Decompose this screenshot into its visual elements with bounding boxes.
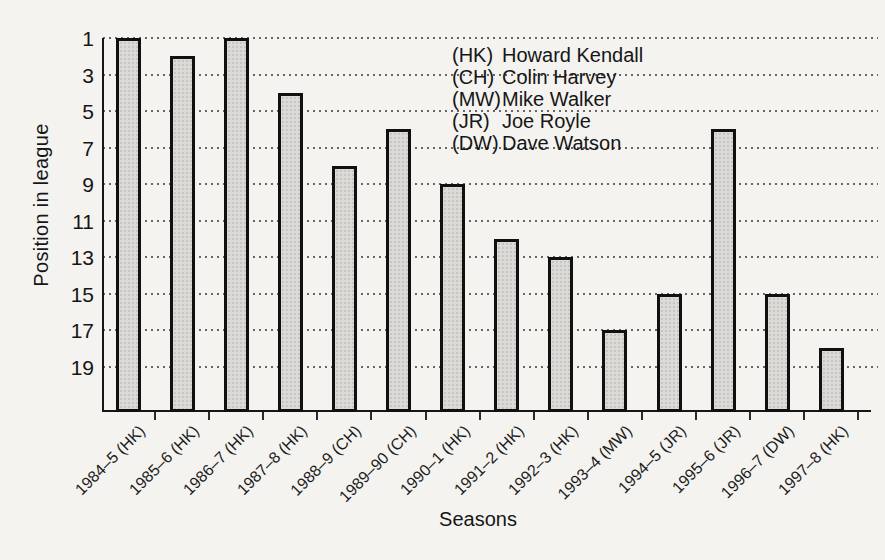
x-axis-line [103, 410, 871, 412]
x-tick-label: 1985–6 (HK) [91, 422, 203, 534]
gridline [103, 293, 878, 295]
x-tick-mark [262, 412, 264, 420]
x-tick-mark [425, 412, 427, 420]
legend-row: (JR)Joe Royle [452, 110, 643, 132]
legend-code: (CH) [452, 66, 502, 89]
x-tick-mark [857, 412, 859, 420]
gridline [103, 183, 878, 185]
bar [657, 294, 682, 413]
x-tick-mark [587, 412, 589, 420]
y-tick-label: 5 [42, 101, 94, 122]
x-tick-label: 1995–6 (JR) [632, 422, 744, 534]
bar [278, 93, 303, 412]
bar [711, 129, 736, 412]
bar [224, 38, 249, 412]
legend-name: Mike Walker [502, 88, 611, 111]
legend: (HK)Howard Kendall(CH)Colin Harvey(MW)Mi… [452, 44, 643, 154]
x-tick-mark [316, 412, 318, 420]
x-tick-mark [208, 412, 210, 420]
x-tick-label: 1984–5 (HK) [37, 422, 149, 534]
legend-row: (CH)Colin Harvey [452, 66, 643, 88]
legend-row: (MW)Mike Walker [452, 88, 643, 110]
gridline [103, 256, 878, 258]
bar [765, 294, 790, 413]
x-tick-mark [749, 412, 751, 420]
x-tick-mark [154, 412, 156, 420]
gridline [103, 366, 878, 368]
x-tick-mark [803, 412, 805, 420]
legend-code: (DW) [452, 132, 502, 155]
x-axis-title: Seasons [439, 508, 517, 531]
x-tick-label: 1997–8 (HK) [740, 422, 852, 534]
bar [440, 184, 465, 412]
gridline [103, 220, 878, 222]
y-tick-label: 3 [42, 65, 94, 86]
x-tick-label: 1988–9 (CH) [253, 422, 365, 534]
bar [116, 38, 141, 412]
x-tick-label: 1993–4 (MW) [524, 422, 636, 534]
bar [548, 257, 573, 412]
legend-name: Howard Kendall [502, 44, 643, 67]
bar [819, 348, 844, 412]
x-tick-label: 1994–5 (JR) [578, 422, 690, 534]
y-tick-label: 13 [42, 247, 94, 268]
bar [602, 330, 627, 412]
legend-name: Colin Harvey [502, 66, 616, 89]
y-axis-line [102, 38, 104, 412]
y-tick-label: 11 [42, 211, 94, 232]
legend-row: (DW)Dave Watson [452, 132, 643, 154]
y-tick-label: 19 [42, 357, 94, 378]
bar-chart: Position in league 1357911131517191984–5… [0, 0, 885, 560]
y-tick-label: 9 [42, 174, 94, 195]
x-tick-mark [479, 412, 481, 420]
y-tick-label: 17 [42, 320, 94, 341]
y-tick-label: 15 [42, 284, 94, 305]
legend-row: (HK)Howard Kendall [452, 44, 643, 66]
legend-code: (HK) [452, 44, 502, 67]
bar [332, 166, 357, 412]
x-tick-mark [370, 412, 372, 420]
bar [494, 239, 519, 412]
y-tick-label: 7 [42, 138, 94, 159]
gridline [103, 329, 878, 331]
y-tick-label: 1 [42, 28, 94, 49]
gridline [103, 37, 878, 39]
legend-code: (JR) [452, 110, 502, 133]
legend-name: Dave Watson [502, 132, 621, 155]
x-tick-mark [533, 412, 535, 420]
legend-name: Joe Royle [502, 110, 591, 133]
x-tick-mark [695, 412, 697, 420]
x-tick-mark [641, 412, 643, 420]
legend-code: (MW) [452, 88, 502, 111]
bar [170, 56, 195, 412]
bar [386, 129, 411, 412]
x-tick-label: 1989–90 (CH) [308, 422, 420, 534]
